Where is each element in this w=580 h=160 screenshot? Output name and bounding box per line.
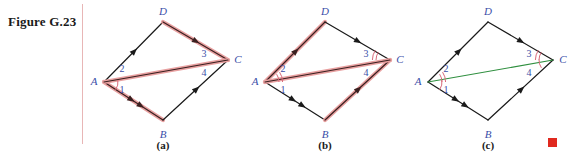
angle-label-3: 3 xyxy=(202,48,207,59)
angle-arc-2 xyxy=(440,74,442,82)
angle-label-1: 1 xyxy=(444,84,449,95)
angle-label-1: 1 xyxy=(281,84,286,95)
panel-caption-a: (a) xyxy=(157,139,170,151)
vertex-label-A: A xyxy=(251,75,259,87)
angle-label-2: 2 xyxy=(444,63,449,74)
edge-AB-arrowhead-2 xyxy=(461,101,469,108)
edge-AB-arrowhead-1 xyxy=(288,95,296,102)
edge-AB-arrowhead-2 xyxy=(298,101,306,108)
angle-arc-4 xyxy=(535,50,538,60)
angle-label-3: 3 xyxy=(527,48,532,59)
angle-arc-3 xyxy=(539,60,541,68)
angle-label-4: 4 xyxy=(364,67,369,78)
angle-label-4: 4 xyxy=(527,67,532,78)
vertex-label-C: C xyxy=(234,53,242,65)
vertex-label-D: D xyxy=(158,5,167,17)
angle-label-2: 2 xyxy=(281,63,286,74)
panel-c: 1234ABCD xyxy=(414,5,568,140)
edge-DC-arrowhead xyxy=(516,37,524,43)
angle-label-2: 2 xyxy=(120,63,125,74)
qed-square-marker xyxy=(548,138,557,147)
vertex-label-C: C xyxy=(396,53,404,65)
panel-a: 1234ABCD xyxy=(90,5,243,140)
vertex-label-D: D xyxy=(483,5,492,17)
edge-AB-arrowhead-1 xyxy=(451,95,459,102)
edge-DC-arrowhead xyxy=(353,37,361,43)
angle-label-3: 3 xyxy=(364,48,369,59)
geometry-diagram-canvas: 1234ABCD1234ABCD1234ABCD xyxy=(0,0,580,160)
panel-b: 1234ABCD xyxy=(251,5,405,140)
vertex-label-A: A xyxy=(414,75,422,87)
angle-arc-4 xyxy=(539,52,541,60)
panel-caption-c: (c) xyxy=(482,139,494,151)
angle-arc-4 xyxy=(376,52,378,60)
panel-caption-b: (b) xyxy=(318,139,331,151)
angle-label-4: 4 xyxy=(202,67,207,78)
angle-arc-4 xyxy=(372,50,375,60)
vertex-label-D: D xyxy=(320,5,329,17)
angle-label-1: 1 xyxy=(120,84,125,95)
vertex-label-C: C xyxy=(559,53,567,65)
vertex-label-A: A xyxy=(90,75,98,87)
